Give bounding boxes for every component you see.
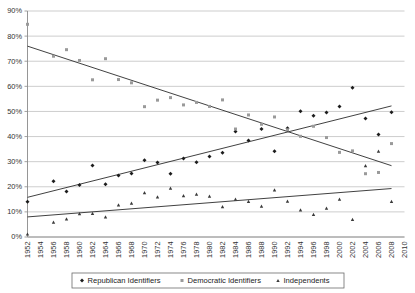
legend-label: Democratic Identifiers xyxy=(188,276,262,285)
data-point xyxy=(299,208,302,211)
x-axis-tick-label: 1974 xyxy=(166,242,175,258)
y-axis-tick-label: 60% xyxy=(7,82,22,91)
data-point xyxy=(130,81,133,84)
x-axis-tick-label: 1984 xyxy=(231,242,240,258)
x-axis-tick-label: 2000 xyxy=(335,242,344,258)
legend: Republican IdentifiersDemocratic Identif… xyxy=(72,273,344,288)
data-point xyxy=(52,55,55,58)
data-point xyxy=(182,194,185,197)
data-point xyxy=(104,57,107,60)
legend-label: Independents xyxy=(284,276,330,285)
data-point xyxy=(338,151,341,154)
data-point xyxy=(78,59,81,62)
x-axis-tick-label: 1972 xyxy=(153,242,162,258)
y-axis-tick-label: 0% xyxy=(11,232,22,241)
legend-marker-square-icon xyxy=(181,279,184,282)
data-point xyxy=(117,78,120,81)
data-point xyxy=(273,188,276,191)
data-point xyxy=(312,125,315,128)
x-axis-tick-label: 2010 xyxy=(400,242,409,258)
x-axis-tick-label: 1968 xyxy=(127,242,136,258)
x-axis-labels-group: 1952195419561958196019621964196619681970… xyxy=(23,242,409,258)
data-point xyxy=(195,192,198,195)
x-axis-tick-label: 1956 xyxy=(49,242,58,258)
data-point xyxy=(26,200,30,204)
data-point xyxy=(221,205,224,208)
trendline-independents xyxy=(28,189,392,217)
data-point xyxy=(351,149,354,152)
data-point xyxy=(221,98,224,101)
data-point xyxy=(390,142,393,145)
y-axis-tick-label: 10% xyxy=(7,207,22,216)
x-axis-tick-label: 1964 xyxy=(101,242,110,258)
data-point xyxy=(286,199,289,202)
series-democratic-identifiers xyxy=(26,23,393,175)
data-point xyxy=(234,197,237,200)
data-point xyxy=(325,136,328,139)
series-republican-identifiers xyxy=(26,86,394,204)
data-point xyxy=(117,203,120,206)
data-point xyxy=(182,103,185,106)
data-point xyxy=(260,127,264,131)
data-point xyxy=(377,171,380,174)
data-point xyxy=(390,200,393,203)
data-point xyxy=(65,48,68,51)
data-point xyxy=(26,23,29,26)
data-point xyxy=(208,154,212,158)
data-point xyxy=(195,160,199,164)
y-axis-tick-label: 90% xyxy=(7,6,22,15)
x-axis-tick-label: 1980 xyxy=(205,242,214,258)
data-point xyxy=(338,197,341,200)
data-point xyxy=(260,123,263,126)
data-point xyxy=(143,191,146,194)
y-axis-tick-label: 80% xyxy=(7,32,22,41)
data-point xyxy=(325,207,328,210)
data-point xyxy=(104,215,107,218)
y-axis-tick-label: 50% xyxy=(7,107,22,116)
x-axis-tick-label: 1976 xyxy=(179,242,188,258)
data-point xyxy=(156,99,159,102)
data-point xyxy=(52,221,55,224)
x-axis-tick-label: 1960 xyxy=(75,242,84,258)
data-point xyxy=(91,78,94,81)
x-axis-tick-label: 1954 xyxy=(36,242,45,258)
data-point xyxy=(299,135,302,138)
data-points-group xyxy=(26,23,394,236)
data-point xyxy=(377,150,380,153)
data-point xyxy=(234,128,237,131)
axis-lines-group xyxy=(28,11,405,237)
x-axis-tick-label: 1998 xyxy=(322,242,331,258)
data-point xyxy=(195,101,198,104)
data-point xyxy=(260,205,263,208)
data-point xyxy=(208,194,211,197)
data-point xyxy=(104,182,108,186)
data-point xyxy=(221,151,225,155)
data-point xyxy=(65,217,68,220)
trendline-republican-identifiers xyxy=(28,106,392,197)
x-axis-tick-label: 1988 xyxy=(257,242,266,258)
legend-label: Republican Identifiers xyxy=(88,276,161,285)
chart-canvas: 0%10%20%30%40%50%60%70%80%90% 1952195419… xyxy=(0,0,415,293)
y-axis-tick-label: 20% xyxy=(7,182,22,191)
x-axis-tick-label: 1982 xyxy=(218,242,227,258)
data-point xyxy=(377,133,381,137)
data-point xyxy=(130,202,133,205)
y-axis-tick-label: 40% xyxy=(7,132,22,141)
x-axis-tick-label: 2006 xyxy=(374,242,383,258)
party-identification-scatter-chart: 0%10%20%30%40%50%60%70%80%90% 1952195419… xyxy=(0,0,415,293)
y-axis-tick-label: 30% xyxy=(7,157,22,166)
x-axis-tick-label: 1986 xyxy=(244,242,253,258)
data-point xyxy=(312,114,316,118)
x-axis-tick-label: 1994 xyxy=(296,242,305,258)
data-point xyxy=(156,160,160,164)
x-axis-tick-label: 1978 xyxy=(192,242,201,258)
data-point xyxy=(169,172,173,176)
x-axis-tick-label: 1996 xyxy=(309,242,318,258)
x-axis-tick-label: 1952 xyxy=(23,242,32,258)
x-axis-tick-label: 1970 xyxy=(140,242,149,258)
data-point xyxy=(299,109,303,113)
data-point xyxy=(91,163,95,167)
data-point xyxy=(325,110,329,114)
x-axis-tick-label: 2002 xyxy=(348,242,357,258)
x-axis-tick-label: 2004 xyxy=(361,242,370,258)
